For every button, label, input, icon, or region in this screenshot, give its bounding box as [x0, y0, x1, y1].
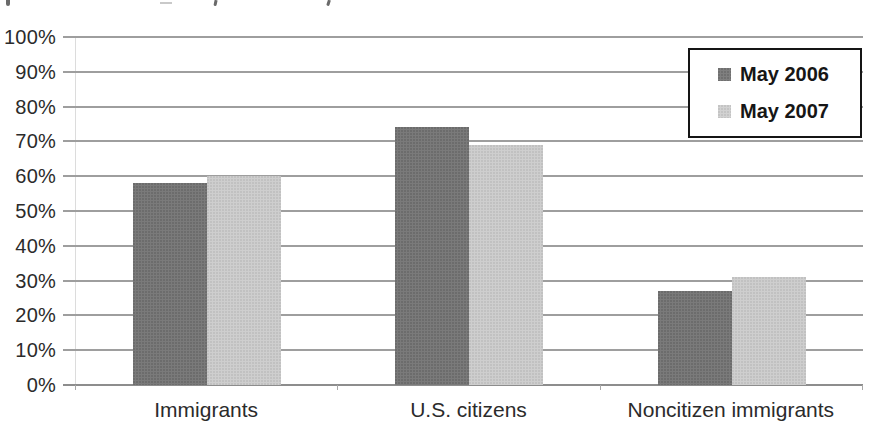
y-axis-label-40pct: 40% [0, 235, 56, 257]
caption-fragment [213, 0, 217, 6]
legend-entry-may-2006: May 2006 [718, 63, 860, 86]
legend-swatch-icon [718, 68, 731, 81]
y-tick-mark [63, 36, 76, 38]
caption-fragment [6, 0, 10, 6]
y-tick-mark [63, 140, 76, 142]
x-axis-labels: ImmigrantsU.S. citizensNoncitizen immigr… [75, 398, 862, 422]
bar-pair [338, 37, 600, 385]
y-axis-label-100pct: 100% [0, 26, 56, 48]
x-axis-label-noncitizen-immigrants: Noncitizen immigrants [600, 398, 862, 422]
bar-may-2006-u-s-citizens [395, 127, 469, 385]
y-axis-label-80pct: 80% [0, 96, 56, 118]
bar-chart-figure: 100%90%80%70%60%50%40%30%20%10%0% Immigr… [0, 0, 878, 436]
y-tick-mark [63, 314, 76, 316]
caption-fragment [326, 0, 331, 6]
legend: May 2006May 2007 [688, 48, 862, 138]
y-tick-mark [63, 245, 76, 247]
bar-may-2006-noncitizen-immigrants [658, 291, 732, 385]
x-tick-mark [862, 385, 863, 390]
legend-entry-may-2007: May 2007 [718, 100, 860, 123]
x-tick-mark [600, 385, 601, 390]
bar-pair [76, 37, 338, 385]
y-axis-labels: 100%90%80%70%60%50%40%30%20%10%0% [0, 37, 56, 385]
x-tick-mark [337, 385, 338, 390]
x-axis-label-u-s-citizens: U.S. citizens [337, 398, 599, 422]
y-tick-mark [63, 349, 76, 351]
y-axis-label-10pct: 10% [0, 339, 56, 361]
y-tick-mark [63, 210, 76, 212]
bar-group-u-s-citizens [338, 37, 600, 385]
x-axis-line [76, 384, 863, 386]
x-tick-mark [75, 385, 76, 390]
y-tick-mark [63, 280, 76, 282]
y-axis-label-0pct: 0% [0, 374, 56, 396]
y-axis-label-90pct: 90% [0, 61, 56, 83]
x-axis-label-immigrants: Immigrants [75, 398, 337, 422]
legend-label: May 2007 [740, 100, 829, 123]
y-axis-label-30pct: 30% [0, 270, 56, 292]
cropped-caption-fragments [0, 0, 878, 7]
y-axis-label-20pct: 20% [0, 304, 56, 326]
bar-may-2007-immigrants [207, 176, 281, 385]
y-axis-label-70pct: 70% [0, 130, 56, 152]
bar-may-2007-noncitizen-immigrants [732, 277, 806, 385]
y-tick-mark [63, 71, 76, 73]
y-tick-mark [63, 106, 76, 108]
legend-label: May 2006 [740, 63, 829, 86]
bar-may-2006-immigrants [133, 183, 207, 385]
caption-fragment [160, 2, 172, 4]
legend-swatch-icon [718, 105, 731, 118]
y-tick-mark [63, 175, 76, 177]
y-axis-label-60pct: 60% [0, 165, 56, 187]
bar-group-immigrants [76, 37, 338, 385]
y-axis-label-50pct: 50% [0, 200, 56, 222]
bar-may-2007-u-s-citizens [469, 145, 543, 385]
